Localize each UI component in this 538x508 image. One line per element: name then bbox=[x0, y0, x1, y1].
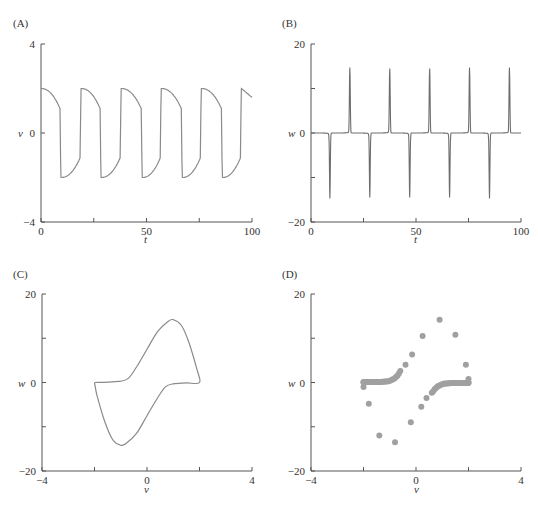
panel-c: (C) −404200−20 w v bbox=[13, 268, 255, 495]
x-tick-label: 0 bbox=[308, 225, 314, 237]
scatter-point bbox=[424, 395, 430, 401]
x-tick-label: −4 bbox=[36, 474, 48, 486]
panel-label-b: (B) bbox=[282, 17, 297, 30]
y-tick-label: −20 bbox=[288, 465, 306, 477]
scatter-point bbox=[408, 419, 414, 425]
panel-c-phase-loop bbox=[95, 319, 201, 445]
y-tick-label: 0 bbox=[31, 377, 37, 389]
y-tick-label: −4 bbox=[23, 216, 35, 228]
y-tick-label: 4 bbox=[30, 38, 36, 50]
y-tick-label: 20 bbox=[294, 38, 306, 50]
axis-lines bbox=[41, 44, 252, 222]
panel-d-ylabel: w bbox=[288, 377, 296, 389]
panel-label-a: (A) bbox=[13, 17, 29, 30]
x-tick-label: 4 bbox=[249, 474, 255, 486]
scatter-point bbox=[437, 317, 443, 323]
scatter-point bbox=[420, 333, 426, 339]
scatter-point bbox=[361, 380, 367, 386]
axis-lines bbox=[311, 294, 521, 471]
figure-canvas: (A) 05010040−4 v t (B) 050100200−20 w t … bbox=[0, 0, 538, 508]
panel-label-c: (C) bbox=[13, 268, 28, 281]
x-tick-label: 0 bbox=[38, 225, 44, 237]
panel-c-ylabel: w bbox=[18, 377, 26, 389]
scatter-point bbox=[452, 332, 458, 338]
panel-a: (A) 05010040−4 v t bbox=[13, 17, 261, 245]
axis-lines bbox=[42, 294, 252, 471]
y-tick-label: 0 bbox=[300, 377, 306, 389]
y-tick-label: 20 bbox=[25, 288, 37, 300]
x-tick-label: 100 bbox=[513, 225, 530, 237]
panel-d-axes: −404200−20 bbox=[288, 288, 524, 486]
y-tick-label: −20 bbox=[19, 465, 37, 477]
panel-c-axes: −404200−20 bbox=[19, 288, 255, 486]
scatter-point bbox=[409, 352, 415, 358]
panel-c-xlabel: v bbox=[144, 483, 149, 495]
panel-b: (B) 050100200−20 w t bbox=[282, 17, 530, 245]
panel-d-scatter-points bbox=[361, 317, 472, 446]
x-tick-label: 100 bbox=[244, 225, 261, 237]
scatter-point bbox=[366, 401, 372, 407]
scatter-point bbox=[397, 368, 403, 374]
panel-d-xlabel: v bbox=[414, 483, 419, 495]
panel-label-d: (D) bbox=[282, 268, 298, 281]
panel-b-ylabel: w bbox=[288, 127, 296, 139]
x-tick-label: −4 bbox=[305, 474, 317, 486]
scatter-point bbox=[429, 390, 435, 396]
scatter-point bbox=[418, 404, 424, 410]
y-tick-label: 0 bbox=[300, 127, 306, 139]
scatter-point bbox=[403, 362, 409, 368]
y-tick-label: −20 bbox=[288, 216, 306, 228]
y-tick-label: 0 bbox=[30, 127, 36, 139]
panel-a-ylabel: v bbox=[18, 127, 23, 139]
panel-a-v-trace bbox=[41, 89, 252, 178]
scatter-point bbox=[376, 433, 382, 439]
scatter-point bbox=[392, 439, 398, 445]
panel-b-w-trace bbox=[311, 67, 521, 198]
x-tick-label: 4 bbox=[518, 474, 524, 486]
panel-d: (D) −404200−20 w v bbox=[282, 268, 524, 495]
y-tick-label: 20 bbox=[294, 288, 306, 300]
scatter-point bbox=[463, 362, 469, 368]
